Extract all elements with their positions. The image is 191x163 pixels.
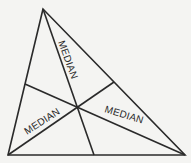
triangle-medians-diagram: MEDIAN MEDIAN MEDIAN [0,0,191,163]
median-label-1: MEDIAN [56,39,80,80]
triangle [8,9,185,155]
median-from-bottom-left [8,82,114,155]
median-from-apex [43,9,94,155]
